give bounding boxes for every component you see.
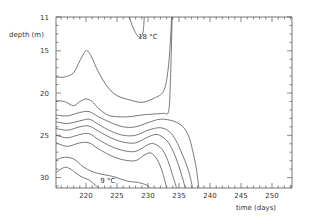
contour-lines <box>56 17 199 188</box>
plot-frame <box>56 17 292 188</box>
y-tick-label: 30 <box>40 174 49 182</box>
x-tick-labels: 220225230235240245250 <box>79 192 278 200</box>
x-tick-label: 245 <box>234 192 247 200</box>
x-tick-label: 240 <box>203 192 216 200</box>
y-tick-label: 15 <box>40 47 49 55</box>
x-tick-label: 220 <box>79 192 92 200</box>
x-tick-label: 230 <box>141 192 154 200</box>
x-axis-label: time (days) <box>236 204 276 212</box>
x-tick-label: 225 <box>110 192 123 200</box>
y-axis-label: depth (m) <box>9 31 44 39</box>
contour-17C <box>56 17 171 102</box>
contour-label: 9 °C <box>100 177 115 185</box>
contour-label: 18 °C <box>138 33 158 41</box>
contour-chart: 220225230235240245250 1115202530 depth (… <box>0 0 309 223</box>
x-tick-label: 250 <box>265 192 278 200</box>
contour-annotations: 18 °C9 °C <box>100 33 157 185</box>
contour-15C <box>56 111 199 187</box>
x-tick-label: 235 <box>172 192 185 200</box>
contour-9C <box>56 167 99 187</box>
y-tick-label: 20 <box>40 90 49 98</box>
y-tick-label: 25 <box>40 132 49 140</box>
y-tick-label: 11 <box>40 14 49 22</box>
contour-12C <box>56 133 176 187</box>
axis-ticks <box>56 17 292 188</box>
contour-14C <box>56 119 192 188</box>
